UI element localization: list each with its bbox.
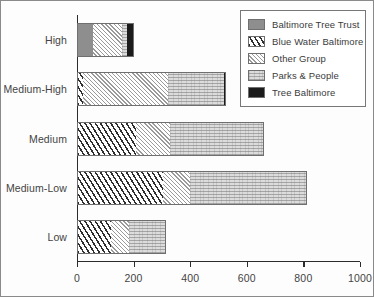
legend-swatch-icon bbox=[248, 19, 265, 30]
x-tick-mark bbox=[77, 262, 78, 267]
legend-item[interactable]: Tree Baltimore bbox=[248, 84, 359, 101]
category-label: Medium-High bbox=[3, 83, 67, 95]
bar-segment bbox=[170, 122, 263, 156]
bar-segment bbox=[83, 72, 168, 106]
legend-item[interactable]: Baltimore Tree Trust bbox=[248, 16, 359, 33]
bar-segment bbox=[111, 220, 129, 254]
x-tick-mark bbox=[190, 262, 191, 267]
legend-swatch-icon bbox=[248, 87, 265, 98]
x-tick-label: 0 bbox=[74, 272, 80, 284]
x-tick-label: 200 bbox=[125, 272, 143, 284]
x-tick-mark bbox=[247, 262, 248, 267]
bar-segment bbox=[168, 72, 225, 106]
bar-segment bbox=[77, 122, 136, 156]
x-tick-mark bbox=[134, 262, 135, 267]
bar-segment bbox=[77, 220, 111, 254]
bar-segment bbox=[129, 220, 166, 254]
bar-segment bbox=[127, 23, 133, 57]
category-label: Medium-Low bbox=[6, 182, 67, 194]
bar-row: Medium-High bbox=[77, 72, 226, 106]
bar-segment bbox=[77, 23, 93, 57]
category-label: Medium bbox=[29, 133, 67, 145]
legend-label: Other Group bbox=[272, 53, 326, 64]
x-tick-mark bbox=[360, 262, 361, 267]
bar-segment bbox=[190, 171, 307, 205]
bar-row: High bbox=[77, 23, 134, 57]
legend-swatch-icon bbox=[248, 70, 265, 81]
x-tick-label: 600 bbox=[238, 272, 256, 284]
bar-segment bbox=[136, 122, 170, 156]
legend-label: Tree Baltimore bbox=[272, 87, 335, 98]
legend-item[interactable]: Parks & People bbox=[248, 67, 359, 84]
category-label: Low bbox=[47, 231, 67, 243]
bar-row: Medium-Low bbox=[77, 171, 307, 205]
x-tick-mark bbox=[303, 262, 304, 267]
legend-item[interactable]: Other Group bbox=[248, 50, 359, 67]
legend-label: Blue Water Baltimore bbox=[272, 36, 363, 47]
bar-segment bbox=[224, 72, 225, 106]
x-tick-label: 400 bbox=[181, 272, 199, 284]
chart-legend: Baltimore Tree TrustBlue Water Baltimore… bbox=[240, 10, 366, 107]
legend-label: Baltimore Tree Trust bbox=[272, 19, 360, 30]
legend-label: Parks & People bbox=[272, 70, 339, 81]
category-label: High bbox=[45, 34, 67, 46]
x-tick-label: 800 bbox=[294, 272, 312, 284]
chart-figure: 02004006008001000 HighMedium-HighMediumM… bbox=[0, 0, 374, 297]
bar-row: Medium bbox=[77, 122, 264, 156]
legend-swatch-icon bbox=[248, 36, 265, 47]
legend-item[interactable]: Blue Water Baltimore bbox=[248, 33, 359, 50]
x-tick-label: 1000 bbox=[348, 272, 372, 284]
bar-segment bbox=[93, 23, 122, 57]
legend-swatch-icon bbox=[248, 53, 265, 64]
bar-row: Low bbox=[77, 220, 166, 254]
bar-segment bbox=[77, 171, 163, 205]
bar-segment bbox=[163, 171, 190, 205]
